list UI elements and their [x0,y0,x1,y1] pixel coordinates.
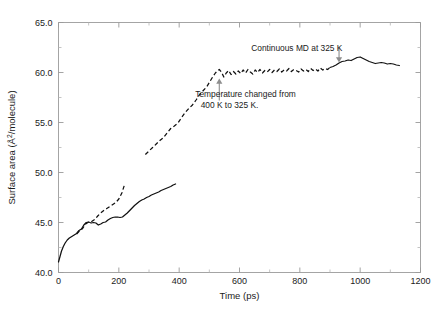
y-tick-label: 55.0 [35,118,53,128]
y-tick-label: 60.0 [35,68,53,78]
x-tick-label: 600 [232,276,247,286]
x-tick-label: 1000 [350,276,370,286]
y-tick-label: 40.0 [35,268,53,278]
x-tick-label: 200 [111,276,126,286]
annotation-line-2: 400 K to 325 K. [201,100,259,110]
y-axis-label: Surface area (Å2/molecule) [6,90,18,204]
x-tick-label: 0 [56,276,61,286]
x-tick-label: 1200 [410,276,430,286]
x-tick-label: 800 [292,276,307,286]
chart-background [0,0,437,314]
surface-area-vs-time-chart: 020040060080010001200 40.045.050.055.060… [0,0,437,314]
annotation-label-continuous-md: Continuous MD at 325 K [251,43,343,53]
x-axis-label: Time (ps) [220,290,260,301]
y-tick-label: 45.0 [35,218,53,228]
y-tick-label: 65.0 [35,18,53,28]
annotation-line-1: Temperature changed from [195,89,296,99]
x-tick-label: 400 [172,276,187,286]
y-tick-label: 50.0 [35,168,53,178]
y-axis-label-text: Surface area (Å2/molecule) [6,90,18,204]
